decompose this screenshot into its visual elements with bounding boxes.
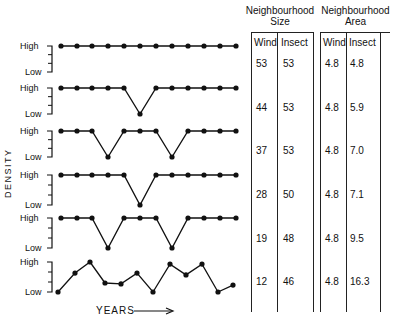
data-point xyxy=(153,85,158,90)
size-title-line1: Neighbourhood xyxy=(244,5,316,16)
data-point xyxy=(233,172,238,177)
y-axis-bracket xyxy=(47,131,52,157)
data-point xyxy=(201,128,206,133)
table-cell-size-insect: 46 xyxy=(283,276,294,287)
data-point xyxy=(58,128,63,133)
data-point xyxy=(74,215,79,220)
data-point xyxy=(169,245,174,250)
data-point xyxy=(215,289,220,294)
data-point xyxy=(169,172,174,177)
data-point xyxy=(118,281,123,286)
density-line-charts: HighLowHighLowHighLowHighLowHighLowHighL… xyxy=(0,0,393,320)
y-axis-title: DENSITY xyxy=(3,148,13,198)
data-point xyxy=(185,215,190,220)
data-point xyxy=(185,128,190,133)
data-point xyxy=(58,215,63,220)
y-axis-bracket xyxy=(47,218,52,248)
data-point xyxy=(121,85,126,90)
table-cell-size-wind: 53 xyxy=(256,58,267,69)
data-point xyxy=(137,128,142,133)
data-point xyxy=(217,215,222,220)
table-cell-area-insect: 4.8 xyxy=(350,58,364,69)
table-cell-size-wind: 37 xyxy=(256,145,267,156)
high-label: High xyxy=(20,170,39,180)
data-point xyxy=(121,128,126,133)
high-label: High xyxy=(20,126,39,136)
data-point xyxy=(102,280,107,285)
data-point xyxy=(89,128,94,133)
data-point xyxy=(201,215,206,220)
data-point xyxy=(153,215,158,220)
y-axis-bracket xyxy=(47,46,52,72)
data-point xyxy=(185,85,190,90)
table-cell-area-wind: 4.8 xyxy=(325,102,339,113)
high-label: High xyxy=(20,83,39,93)
table-cell-area-wind: 4.8 xyxy=(325,189,339,200)
data-point xyxy=(58,172,63,177)
data-point xyxy=(74,128,79,133)
data-point xyxy=(201,172,206,177)
data-point xyxy=(233,43,238,48)
high-label: High xyxy=(20,41,39,51)
area-wind-column-header: Wind xyxy=(323,37,346,48)
table-cell-size-insect: 50 xyxy=(283,189,294,200)
data-point xyxy=(169,85,174,90)
table-cell-size-wind: 44 xyxy=(256,102,267,113)
neighbourhood-size-header: Neighbourhood Size xyxy=(244,5,316,27)
data-point xyxy=(137,111,142,116)
table-cell-size-wind: 28 xyxy=(256,189,267,200)
data-point xyxy=(185,43,190,48)
table-cell-area-insect: 5.9 xyxy=(350,102,364,113)
data-point xyxy=(185,172,190,177)
data-point xyxy=(233,128,238,133)
size-title-line2: Size xyxy=(244,16,316,27)
area-insect-column-header: Insect xyxy=(349,37,376,48)
high-label: High xyxy=(20,257,39,267)
area-table-left-border xyxy=(320,32,321,312)
data-point xyxy=(72,271,77,276)
area-title-line2: Area xyxy=(318,16,393,27)
size-insect-column-header: Insect xyxy=(281,37,308,48)
data-point xyxy=(169,43,174,48)
low-label: Low xyxy=(25,243,42,253)
y-axis-bracket xyxy=(47,88,52,114)
table-cell-size-insect: 53 xyxy=(283,58,294,69)
data-point xyxy=(201,43,206,48)
low-label: Low xyxy=(25,287,42,297)
data-point xyxy=(153,43,158,48)
data-point xyxy=(217,128,222,133)
table-cell-size-wind: 19 xyxy=(256,233,267,244)
table-cell-area-wind: 4.8 xyxy=(325,233,339,244)
data-point xyxy=(89,85,94,90)
low-label: Low xyxy=(25,109,42,119)
table-cell-area-insect: 9.5 xyxy=(350,233,364,244)
data-point xyxy=(74,85,79,90)
area-title-line1: Neighbourhood xyxy=(318,5,393,16)
table-cell-size-insect: 53 xyxy=(283,102,294,113)
y-axis-bracket xyxy=(47,175,52,205)
data-point xyxy=(233,85,238,90)
data-point xyxy=(150,289,155,294)
size-table-mid-divider xyxy=(277,32,278,312)
density-line xyxy=(61,88,236,114)
y-axis-bracket xyxy=(47,262,52,292)
table-cell-area-insect: 16.3 xyxy=(350,276,369,287)
data-point xyxy=(183,272,188,277)
table-cell-size-insect: 48 xyxy=(283,233,294,244)
area-table-right-border xyxy=(380,32,381,312)
low-label: Low xyxy=(25,67,42,77)
data-point xyxy=(58,43,63,48)
data-point xyxy=(217,172,222,177)
data-point xyxy=(74,172,79,177)
data-point xyxy=(105,43,110,48)
data-point xyxy=(55,289,60,294)
data-point xyxy=(201,85,206,90)
high-label: High xyxy=(20,213,39,223)
data-point xyxy=(233,215,238,220)
table-cell-area-insect: 7.1 xyxy=(350,189,364,200)
x-axis-title: YEARS xyxy=(96,305,135,316)
data-point xyxy=(169,154,174,159)
data-point xyxy=(89,215,94,220)
data-point xyxy=(137,43,142,48)
data-point xyxy=(167,262,172,267)
